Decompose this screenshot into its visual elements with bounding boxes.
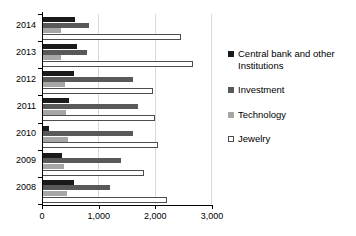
bar [42,115,155,121]
bar [42,185,110,190]
bar [42,170,144,176]
bar [42,180,74,185]
y-axis-tick [38,204,42,205]
bar [42,191,67,196]
y-axis-tick [38,14,42,15]
x-axis-tick [99,205,100,209]
bar [42,158,121,163]
legend-item[interactable]: Technology [228,109,354,121]
legend-label: Jewelry [238,133,270,145]
bar [42,55,61,60]
x-axis-tick-label: 3,000 [192,211,232,222]
x-axis-tick [155,205,156,209]
bar [42,23,89,28]
bar [42,61,193,67]
y-axis-tick [38,150,42,151]
y-axis-tick [38,41,42,42]
y-axis-tick [38,123,42,124]
x-axis-line [42,205,213,206]
bar-chart: 01,0002,0003,000201420132012201120102009… [0,0,356,236]
legend-swatch-icon [228,136,234,142]
y-axis-tick [38,177,42,178]
bar [42,137,68,142]
y-axis-tick-label: 2011 [0,101,36,112]
y-axis-tick-label: 2013 [0,47,36,58]
bar [42,28,61,33]
bar-group [42,41,212,68]
bar-group [42,177,212,204]
legend-swatch-icon [228,87,234,93]
bar [42,98,69,103]
legend-swatch-icon [228,112,234,118]
y-axis-tick-label: 2014 [0,20,36,31]
bar [42,88,153,94]
bar [42,142,158,148]
legend-label: Technology [238,109,286,121]
y-axis-tick [38,68,42,69]
x-axis-tick [212,205,213,209]
bar-group [42,68,212,95]
bar [42,71,74,76]
y-axis-tick-label: 2008 [0,182,36,193]
legend-item[interactable]: Jewelry [228,133,354,145]
y-axis-tick-label: 2012 [0,74,36,85]
bar [42,197,167,203]
x-axis-tick-label: 1,000 [79,211,119,222]
y-axis-tick [38,95,42,96]
bar-group [42,95,212,122]
bar-group [42,14,212,41]
bar [42,44,77,49]
plot-area [42,14,212,204]
x-axis-tick [42,205,43,209]
y-axis-tick-label: 2009 [0,155,36,166]
bar [42,50,87,55]
chart-legend: Central bank and other InstitutionsInves… [228,48,354,158]
y-axis-tick-label: 2010 [0,128,36,139]
bar-group [42,123,212,150]
bar [42,82,65,87]
bar [42,104,138,109]
x-axis-tick-label: 0 [22,211,62,222]
bar [42,131,133,136]
legend-label: Central bank and other Institutions [238,48,354,71]
legend-item[interactable]: Central bank and other Institutions [228,48,354,71]
legend-label: Investment [238,84,284,96]
bar [42,17,75,22]
legend-item[interactable]: Investment [228,84,354,96]
bar [42,126,49,131]
legend-swatch-icon [228,51,234,57]
bar [42,110,66,115]
bar [42,34,181,40]
bar [42,77,133,82]
bar-group [42,150,212,177]
x-axis-tick-label: 2,000 [135,211,175,222]
y-axis-line [42,12,43,206]
bar [42,164,64,169]
bar [42,153,62,158]
